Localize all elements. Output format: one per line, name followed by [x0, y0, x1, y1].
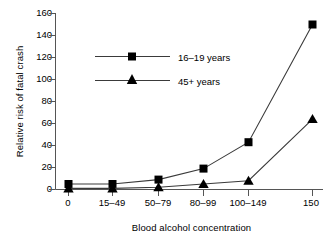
- plot-area: [0, 0, 328, 243]
- data-point: [200, 165, 208, 173]
- series-layer: [63, 21, 317, 193]
- data-point: [307, 114, 317, 123]
- data-point: [245, 138, 253, 146]
- legend-sample-45plus: [95, 74, 170, 84]
- chart-figure: Relative risk of fatal crash 160 140 120…: [0, 0, 328, 243]
- series-older: [63, 114, 317, 192]
- legend-marker-square: [128, 53, 136, 61]
- legend-marker-triangle: [127, 74, 137, 84]
- series-teen: [65, 21, 317, 189]
- legend-sample-16-19: [95, 53, 170, 61]
- series-line: [69, 119, 313, 188]
- data-point: [309, 21, 317, 29]
- series-line: [69, 25, 313, 185]
